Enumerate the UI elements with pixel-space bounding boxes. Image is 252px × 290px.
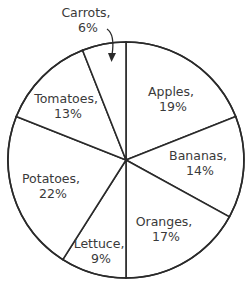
label-apples-pct: 19%	[159, 99, 187, 114]
label-lettuce-pct: 9%	[91, 251, 111, 266]
label-tomatoes-pct: 13%	[54, 106, 82, 121]
label-bananas-pct: 14%	[186, 163, 214, 178]
pie-chart: Apples, 19% Bananas, 14% Oranges, 17% Le…	[0, 0, 252, 290]
label-carrots-pct: 6%	[78, 20, 98, 35]
label-oranges-name: Oranges,	[136, 214, 193, 229]
label-lettuce-name: Lettuce,	[74, 236, 125, 251]
label-bananas-name: Bananas,	[169, 148, 227, 163]
label-potatoes-name: Potatoes,	[22, 171, 80, 186]
label-oranges-pct: 17%	[152, 229, 180, 244]
label-tomatoes-name: Tomatoes,	[33, 91, 98, 106]
label-apples-name: Apples,	[148, 84, 194, 99]
label-carrots: Carrots, 6%	[61, 5, 114, 35]
label-carrots-name: Carrots,	[61, 5, 110, 20]
label-potatoes-pct: 22%	[39, 186, 67, 201]
